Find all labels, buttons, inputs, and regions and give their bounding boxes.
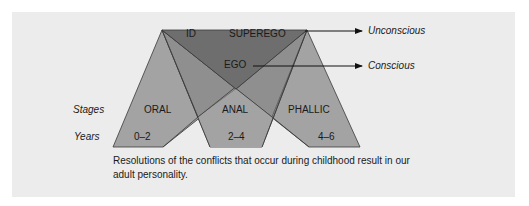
years-row-label: Years — [74, 132, 100, 142]
stage-phallic-years: 4–6 — [318, 132, 335, 142]
diagram-caption: Resolutions of the conflicts that occur … — [113, 154, 413, 182]
stage-oral-name: ORAL — [144, 105, 171, 115]
stage-phallic-name: PHALLIC — [288, 105, 330, 115]
stages-row-label: Stages — [73, 105, 104, 115]
stage-anal-name: ANAL — [222, 105, 248, 115]
ego-label: EGO — [224, 60, 246, 70]
stage-oral-years: 0–2 — [134, 132, 151, 142]
superego-label: SUPEREGO — [229, 29, 286, 39]
id-label: ID — [186, 29, 196, 39]
unconscious-label: Unconscious — [368, 26, 425, 36]
conscious-label: Conscious — [368, 61, 415, 71]
stage-anal-years: 2–4 — [228, 132, 245, 142]
